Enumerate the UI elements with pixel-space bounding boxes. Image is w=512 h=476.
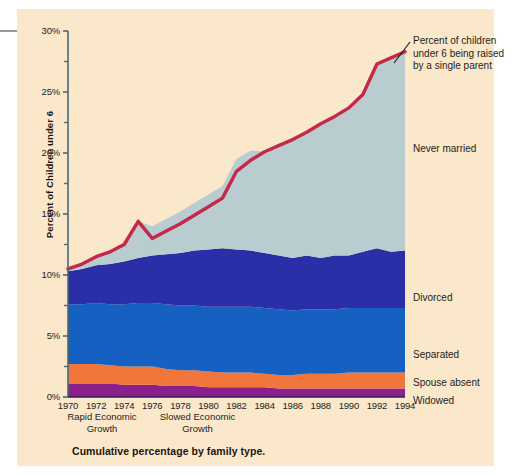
series-label-never-married: Never married <box>413 143 476 156</box>
y-tick-label: 10% <box>20 269 60 280</box>
top-divider-rule <box>0 30 18 32</box>
era-note-slowed-growth: Slowed Economic Growth <box>140 411 255 435</box>
figure-caption: Cumulative percentage by family type. <box>72 445 265 457</box>
area-band-separated <box>68 303 405 375</box>
y-tick-label: 5% <box>20 330 60 341</box>
era-note-slowed-growth-line1: Slowed Economic <box>140 411 255 423</box>
era-note-slowed-growth-line2: Growth <box>140 423 255 435</box>
y-tick-label: 25% <box>20 86 60 97</box>
series-label-widowed: Widowed <box>413 395 454 408</box>
area-band-never-married <box>68 52 405 272</box>
y-tick-label: 20% <box>20 147 60 158</box>
series-label-separated: Separated <box>413 349 459 362</box>
figure-panel: Percent of Children under 6 0%5%10%15%20… <box>17 9 494 466</box>
y-axis-title: Percent of Children under 6 <box>44 105 55 245</box>
trend-line-callout: Percent of children under 6 being raised… <box>413 35 505 73</box>
series-label-spouse-absent: Spouse absent <box>413 377 480 390</box>
y-tick-label: 15% <box>20 208 60 219</box>
series-label-divorced: Divorced <box>413 292 452 305</box>
y-tick-label: 30% <box>20 25 60 36</box>
